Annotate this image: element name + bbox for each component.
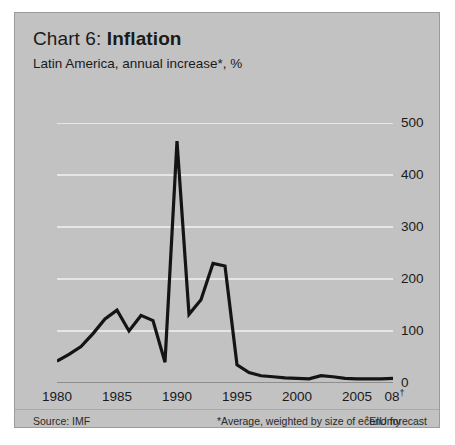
x-axis-tick-label: 1995 [222,390,252,404]
chart-subtitle: Latin America, annual increase*, % [33,55,413,72]
dagger-icon: † [400,388,405,398]
x-axis-tick-label: 08† [385,390,405,404]
footer-forecast-label: EIU forecast [369,415,427,427]
chart-title-name: Inflation [107,28,182,49]
y-axis-tick-label: 300 [401,220,424,234]
page-title: Chart 6: Inflation [33,27,413,50]
footer-forecast-note: †EIU forecast [365,415,427,427]
x-axis-tick-label: 2000 [282,390,312,404]
chart-panel: Chart 6: Inflation Latin America, annual… [14,12,440,428]
y-axis-tick-label: 200 [401,272,424,286]
y-axis-tick-label: 500 [401,116,424,130]
footer-divider [15,409,439,410]
x-axis-ticks [57,123,393,383]
chart-title-number: Chart 6: [33,28,107,49]
x-axis-tick-label: 2005 [342,390,372,404]
gridlines [57,123,393,331]
footer-source: Source: IMF [33,415,90,427]
chart-footer: Source: IMF *Average, weighted by size o… [33,415,427,431]
x-axis-tick-label: 1990 [162,390,192,404]
y-axis-tick-label: 400 [401,168,424,182]
data-series-line [57,141,393,379]
chart-header: Chart 6: Inflation Latin America, annual… [33,27,413,72]
inflation-line-chart [57,123,393,383]
x-axis-tick-label: 1985 [102,390,132,404]
y-axis-tick-label: 100 [401,324,424,338]
plot-area [57,123,393,383]
x-axis-tick-label: 1980 [42,390,72,404]
